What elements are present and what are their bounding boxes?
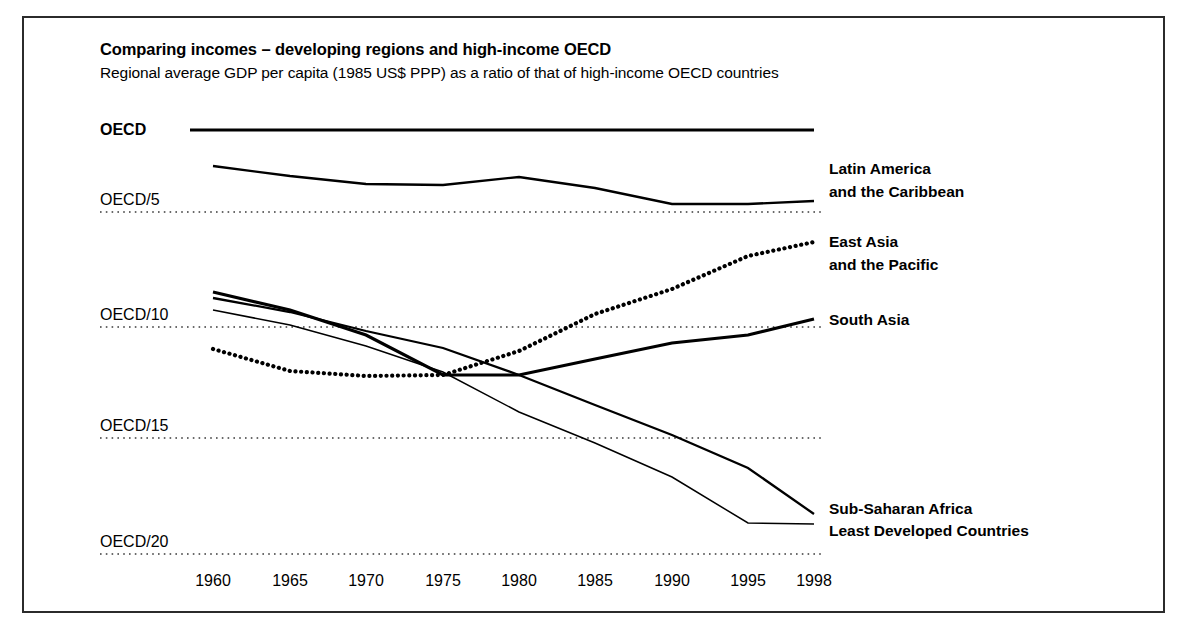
series-labels: Latin America and the Caribbean East Asi… xyxy=(829,160,1029,539)
series-label-latin-america-line2: and the Caribbean xyxy=(829,183,964,200)
y-axis-labels: OECD OECD/5 OECD/10 OECD/15 OECD/20 xyxy=(100,121,169,550)
series-label-south-asia: South Asia xyxy=(829,311,910,328)
series-line-south-asia xyxy=(213,292,814,375)
y-label-oecd: OECD xyxy=(100,121,146,138)
chart-plot-area: OECD OECD/5 OECD/10 OECD/15 OECD/20 Lati… xyxy=(24,18,1167,615)
series-line-east-asia xyxy=(213,242,814,376)
x-tick-1985: 1985 xyxy=(577,572,613,589)
x-tick-1998: 1998 xyxy=(796,572,832,589)
series-label-least-developed: Least Developed Countries xyxy=(829,522,1029,539)
y-label-oecd-10: OECD/10 xyxy=(100,306,169,323)
x-tick-1960: 1960 xyxy=(195,572,231,589)
x-axis-labels: 1960 1965 1970 1975 1980 1985 1990 1995 … xyxy=(195,572,832,589)
series-label-east-asia-line2: and the Pacific xyxy=(829,256,939,273)
figure-frame: Comparing incomes – developing regions a… xyxy=(22,16,1165,613)
series-line-least-developed xyxy=(213,310,814,524)
x-tick-1995: 1995 xyxy=(730,572,766,589)
series-label-sub-saharan-africa: Sub-Saharan Africa xyxy=(829,500,973,517)
series-line-latin-america xyxy=(213,166,814,204)
x-tick-1990: 1990 xyxy=(654,572,690,589)
x-tick-1965: 1965 xyxy=(272,572,308,589)
x-tick-1970: 1970 xyxy=(348,572,384,589)
y-label-oecd-5: OECD/5 xyxy=(100,191,160,208)
series-label-east-asia-line1: East Asia xyxy=(829,233,899,250)
series-line-sub-saharan-africa xyxy=(213,298,814,514)
x-tick-1975: 1975 xyxy=(425,572,461,589)
x-tick-1980: 1980 xyxy=(501,572,537,589)
series-label-latin-america-line1: Latin America xyxy=(829,160,931,177)
y-label-oecd-15: OECD/15 xyxy=(100,417,169,434)
y-label-oecd-20: OECD/20 xyxy=(100,533,169,550)
